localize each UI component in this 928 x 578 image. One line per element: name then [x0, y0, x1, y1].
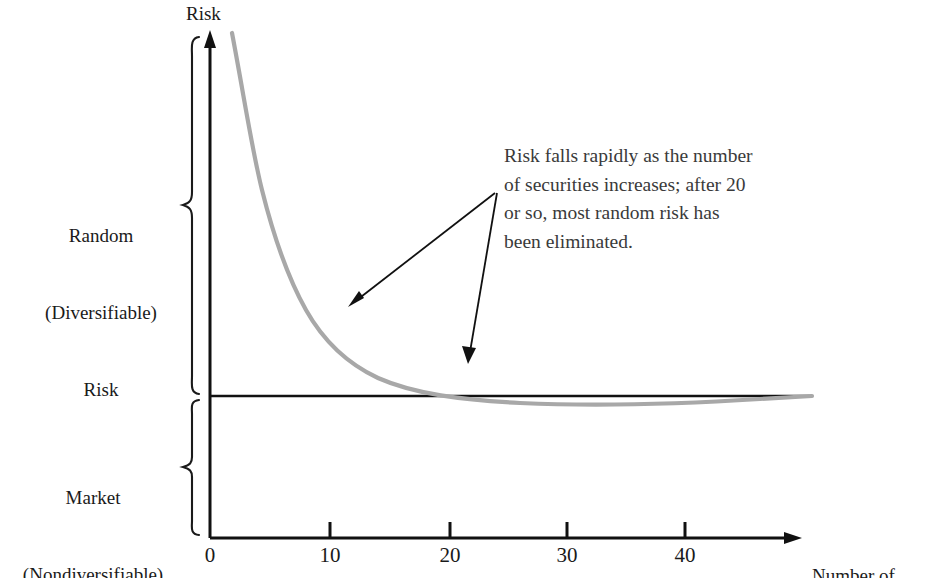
x-axis-title: Number of Securities — [812, 515, 895, 578]
annotation-callout-text: Risk falls rapidly as the number of secu… — [504, 142, 904, 257]
bracket-label-market-line2: (Nondiversifiable) — [8, 562, 178, 578]
bracket-label-market-risk: Market (Nondiversifiable) Risk — [8, 434, 178, 578]
x-tick-label-20: 20 — [425, 543, 475, 569]
x-axis-title-line1: Number of — [812, 564, 895, 578]
x-tick-label-40: 40 — [660, 543, 710, 569]
x-tick-label-10: 10 — [305, 543, 355, 569]
bracket-random-risk — [183, 37, 199, 394]
x-axis — [210, 532, 802, 544]
bracket-label-random-line2: (Diversifiable) — [24, 300, 178, 326]
x-axis-ticks — [330, 522, 685, 538]
bracket-label-random-line3: Risk — [24, 377, 178, 403]
bracket-label-random-risk: Random (Diversifiable) Risk — [24, 172, 178, 428]
bracket-market-risk — [183, 400, 199, 535]
x-tick-label-30: 30 — [542, 543, 592, 569]
y-axis — [204, 30, 216, 538]
bracket-label-market-line1: Market — [8, 485, 178, 511]
annotation-arrows — [348, 193, 497, 364]
x-tick-label-0: 0 — [185, 543, 235, 569]
y-axis-title: Risk — [186, 2, 221, 25]
bracket-label-random-line1: Random — [24, 223, 178, 249]
